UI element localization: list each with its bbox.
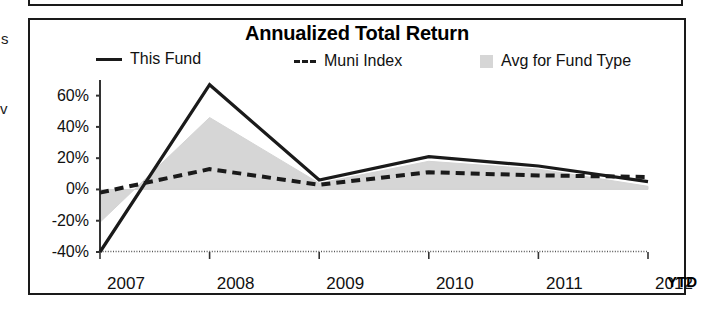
legend-label-this-fund: This Fund (130, 50, 201, 68)
x-axis-labels: 200720082009201020112012 (58, 272, 705, 298)
x-axis-tick-label: 2007 (107, 274, 145, 294)
legend-item-avg-fund-type: Avg for Fund Type (480, 52, 631, 70)
y-axis-tick-label: 60% (57, 87, 89, 105)
cropped-text-fragment-middle: v (0, 101, 8, 116)
x-axis-tick-label: 2009 (326, 274, 364, 294)
x-axis-ytd-label: YTD (667, 273, 697, 290)
dashed-line-icon (294, 60, 316, 63)
cropped-text-fragment-top: s (1, 31, 9, 46)
y-axis-tick-label: 40% (57, 118, 89, 136)
legend-item-this-fund: This Fund (96, 50, 201, 68)
y-axis-tick-label: -40% (52, 243, 89, 261)
chart-panel: Annualized Total Return This Fund Muni I… (28, 18, 686, 295)
solid-line-icon (96, 58, 122, 61)
plot-area: 60%40%20%0%-20%-40% (96, 80, 656, 252)
screenshot-root: s v Annualized Total Return This Fund Mu… (0, 0, 705, 314)
y-axis-tick-label: -20% (52, 212, 89, 230)
chart-canvas (96, 80, 656, 261)
y-axis-tick-label: 0% (66, 180, 89, 198)
y-axis-tick-label: 20% (57, 149, 89, 167)
legend-item-muni-index: Muni Index (294, 52, 402, 70)
gray-swatch-icon (480, 55, 493, 68)
adjacent-panel-border (28, 0, 683, 6)
x-axis-tick-label: 2010 (436, 274, 474, 294)
x-axis-tick-label: 2011 (546, 274, 583, 294)
legend-label-muni-index: Muni Index (324, 52, 402, 70)
x-axis-tick-label: 2008 (217, 274, 255, 294)
legend-label-avg-fund-type: Avg for Fund Type (501, 52, 631, 70)
chart-title: Annualized Total Return (30, 22, 684, 45)
chart-legend: This Fund Muni Index Avg for Fund Type (30, 50, 684, 74)
